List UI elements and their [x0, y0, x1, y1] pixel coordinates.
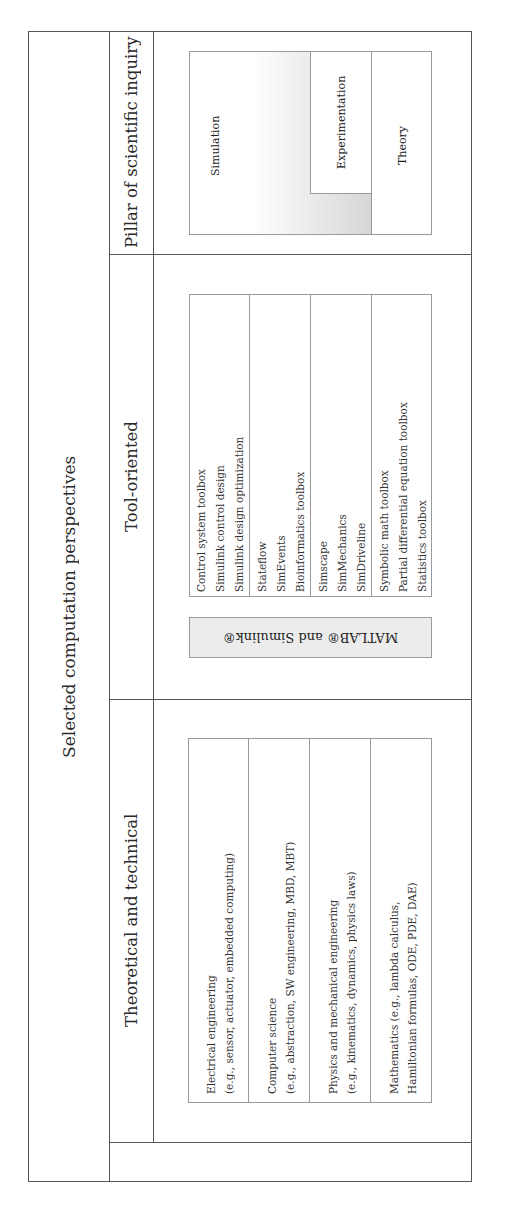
discipline-name: Electrical engineering — [202, 745, 220, 1094]
tool-item: SimMechanics — [333, 300, 352, 592]
tool-group-2: Stateflow SimEvents Bioinformatics toolb… — [253, 300, 309, 592]
discipline-name: Physics and mechanical engineering — [324, 745, 342, 1094]
tool-item: Simulink control design — [211, 300, 230, 592]
discipline-name: Mathematics (e.g., lambda calculus, — [385, 745, 403, 1094]
header-theoretical: Theoretical and technical — [109, 699, 153, 1142]
tool-item: SimDriveline — [352, 300, 371, 592]
tool-col-divider-2 — [310, 294, 311, 597]
discipline-name: Computer science — [263, 745, 281, 1094]
tool-group-1: Control system toolbox Simulink control … — [192, 300, 248, 592]
tool-item: Control system toolbox — [192, 300, 211, 592]
header-divider — [153, 31, 154, 1142]
tool-group-3: Simscape SimMechanics SimDriveline — [314, 300, 370, 592]
tool-item: Symbolic math toolbox — [375, 300, 394, 592]
tool-item: SimEvents — [272, 300, 291, 592]
tool-item: Bioinformatics toolbox — [291, 300, 310, 592]
discipline-col-divider-2 — [309, 738, 310, 1103]
discipline-mathematics: Mathematics (e.g., lambda calculus, Hami… — [377, 745, 429, 1094]
pillar-experimentation-label: Experimentation — [330, 60, 352, 184]
section-divider-1 — [109, 254, 472, 255]
discipline-detail: (e.g., abstraction, SW engineering, MBD,… — [281, 745, 299, 1094]
pillar-simulation-label: Simulation — [205, 110, 225, 182]
tool-col-divider-1 — [249, 294, 250, 597]
tool-item: Stateflow — [253, 300, 272, 592]
platform-label: MATLAB® and Simulink® — [189, 617, 432, 658]
pillar-theory-label: Theory — [391, 100, 413, 190]
discipline-physics: Physics and mechanical engineering (e.g.… — [316, 745, 368, 1094]
diagram-title: Selected computation perspectives — [28, 31, 109, 1182]
tool-item: Statistics toolbox — [413, 300, 432, 592]
section-divider-bottom — [109, 1142, 472, 1143]
discipline-detail: (e.g., kinematics, dynamics, physics law… — [342, 745, 360, 1094]
tool-group-4: Symbolic math toolbox Partial differenti… — [375, 300, 431, 592]
discipline-computer-science: Computer science (e.g., abstraction, SW … — [255, 745, 307, 1094]
discipline-col-divider-3 — [370, 738, 371, 1103]
header-pillar: Pillar of scientific inquiry — [109, 31, 153, 254]
discipline-col-divider-1 — [248, 738, 249, 1103]
header-tool-oriented: Tool-oriented — [109, 254, 153, 699]
discipline-electrical: Electrical engineering (e.g., sensor, ac… — [194, 745, 246, 1094]
discipline-detail: Hamiltonian formulas, ODE, PDE, DAE) — [403, 745, 421, 1094]
tool-item: Partial differential equation toolbox — [394, 300, 413, 592]
section-divider-2 — [109, 699, 472, 700]
tool-col-divider-3 — [371, 294, 372, 597]
tool-item: Simscape — [314, 300, 333, 592]
discipline-detail: (e.g., sensor, actuator, embedded comput… — [220, 745, 238, 1094]
tool-item: Simulink design optimization — [230, 300, 249, 592]
